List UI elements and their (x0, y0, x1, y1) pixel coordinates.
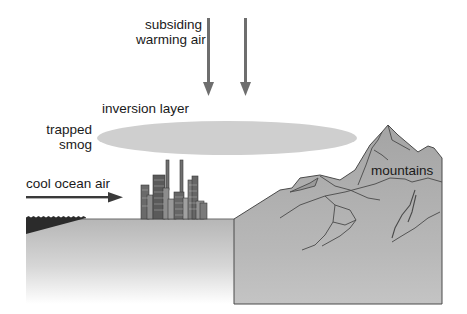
subsiding-air-arrows (203, 18, 251, 96)
mountains-label: mountains (371, 163, 433, 178)
cool-ocean-air-label: cool ocean air (26, 176, 110, 191)
trapped-label-line2: smog (30, 137, 92, 152)
subsiding-label-line2: warming air (136, 32, 202, 47)
subsiding-air-label: subsiding warming air (136, 17, 202, 47)
diagram-canvas (0, 0, 467, 314)
city-buildings (141, 160, 207, 219)
inversion-layer-label: inversion layer (102, 101, 189, 116)
subsiding-label-line1: subsiding (136, 17, 202, 32)
inversion-diagram: subsiding warming air inversion layer tr… (0, 0, 467, 314)
cool-ocean-air-arrow (26, 192, 123, 202)
trapped-label-line1: trapped (30, 122, 92, 137)
trapped-smog-label: trapped smog (30, 122, 92, 152)
inversion-layer-ellipse (97, 121, 357, 155)
